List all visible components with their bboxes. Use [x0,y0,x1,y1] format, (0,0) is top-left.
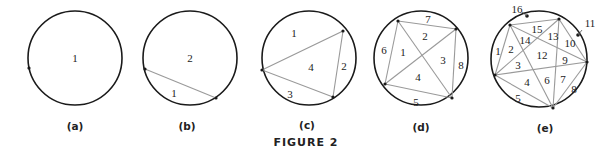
point [143,67,146,70]
region-label: 14 [520,34,532,46]
point [557,17,560,20]
region-label: 2 [422,30,428,42]
point [450,96,453,99]
region-label: 8 [571,83,577,95]
caption-e: (e) [537,122,554,134]
point [508,23,511,26]
region-label: 7 [560,73,566,85]
region-label: 1 [72,52,78,64]
caption-a: (a) [67,120,84,132]
region-label: 8 [458,59,464,71]
point [396,19,399,22]
point [27,66,30,69]
region-label: 2 [508,43,514,55]
circle-c [262,11,356,105]
region-label: 3 [440,54,446,66]
panel-d: 1 2 3 4 5 6 7 8 (d) [374,11,468,133]
point [551,106,554,109]
region-label: 3 [287,88,293,100]
region-label: 4 [415,71,421,83]
point [454,27,457,30]
region-label: 16 [512,3,524,15]
region-label: 1 [291,27,297,39]
chords [262,31,343,97]
panel-b: 2 1 (b) [143,11,237,132]
figure-title: FIGURE 2 [273,136,338,149]
chord [145,69,216,98]
caption-c: (c) [299,119,315,131]
region-label: 7 [425,13,431,25]
region-label: 5 [413,96,419,108]
figure-2: 1 (a) 2 1 (b) 1 2 3 4 (c) FIGURE 2 [0,0,611,154]
region-label: 9 [562,54,568,66]
region-label: 12 [537,49,548,61]
region-label: 13 [548,30,560,42]
region-label: 6 [544,74,550,86]
point [341,29,344,32]
region-label: 2 [341,60,347,72]
point [331,95,334,98]
region-label: 1 [171,87,177,99]
caption-d: (d) [412,121,429,133]
caption-b: (b) [178,120,195,132]
region-label: 1 [495,45,501,57]
region-label: 4 [308,61,314,73]
panel-c: 1 2 3 4 (c) FIGURE 2 [260,11,356,149]
region-label: 6 [381,44,387,56]
point [214,96,217,99]
point [493,73,496,76]
point [260,68,263,71]
region-label: 3 [515,59,521,71]
region-label: 10 [565,37,577,49]
point [383,82,386,85]
region-label: 11 [585,17,596,29]
region-label: 1 [400,46,406,58]
region-label: 4 [524,76,530,88]
panel-a: 1 (a) [27,11,122,132]
region-label: 15 [532,23,544,35]
panel-e: 1 2 3 4 5 6 7 8 9 10 11 12 13 14 15 16 (… [491,3,595,134]
point [585,60,588,63]
region-label: 5 [515,92,521,104]
region-label: 2 [187,52,193,64]
